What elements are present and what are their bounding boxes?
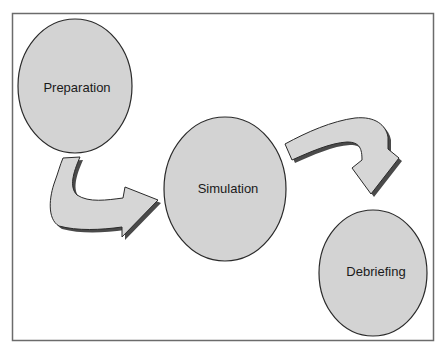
node-label-preparation: Preparation xyxy=(43,80,110,95)
diagram-canvas xyxy=(0,0,444,353)
node-label-debriefing: Debriefing xyxy=(346,264,405,279)
node-label-simulation: Simulation xyxy=(198,181,259,196)
